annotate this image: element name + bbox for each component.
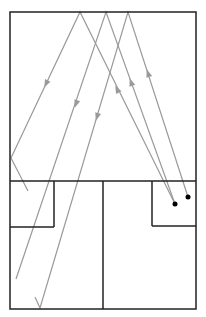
ray-2 xyxy=(16,12,175,279)
arrow-up-3-arrow-icon xyxy=(146,69,152,78)
source-2-dot xyxy=(186,195,191,200)
arrow-down-3-arrow-icon xyxy=(95,112,101,121)
arrow-up-2-arrow-icon xyxy=(130,78,136,87)
walls-layer xyxy=(10,12,196,309)
sources-layer xyxy=(173,195,191,207)
ray-3 xyxy=(35,12,188,308)
source-1-dot xyxy=(173,202,178,207)
rays-layer xyxy=(11,12,188,308)
ray-diagram xyxy=(0,0,206,317)
arrow-down-1-arrow-icon xyxy=(44,79,50,88)
ray-1 xyxy=(11,12,175,204)
arrow-down-2-arrow-icon xyxy=(74,99,80,108)
